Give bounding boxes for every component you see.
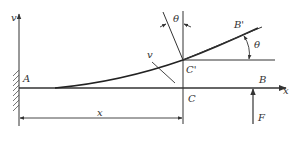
fixed-support-hatching <box>13 70 19 111</box>
v-axis-label: v <box>11 13 17 23</box>
x-axis-label: x <box>283 86 289 96</box>
deflection-leader-line <box>152 62 175 83</box>
point-c-prime-label: C' <box>186 65 196 75</box>
theta-arc-right <box>244 36 249 59</box>
diagram-graphics <box>0 0 296 147</box>
point-b-label: B <box>259 75 266 85</box>
theta-top-label: θ <box>173 14 179 24</box>
force-f-label: F <box>258 113 265 123</box>
theta-marks-top <box>160 24 191 27</box>
deflection-v-label: v <box>147 50 153 60</box>
distance-x-label: x <box>97 108 103 118</box>
point-b-prime-label: B' <box>234 20 244 30</box>
theta-right-label: θ <box>254 40 260 50</box>
point-a-label: A <box>23 74 30 84</box>
tangent-line <box>183 27 262 60</box>
beam-deflection-diagram: v x A B B' C C' v θ θ x F <box>0 0 296 147</box>
deflection-curve <box>55 28 258 88</box>
point-c-label: C <box>188 94 196 104</box>
